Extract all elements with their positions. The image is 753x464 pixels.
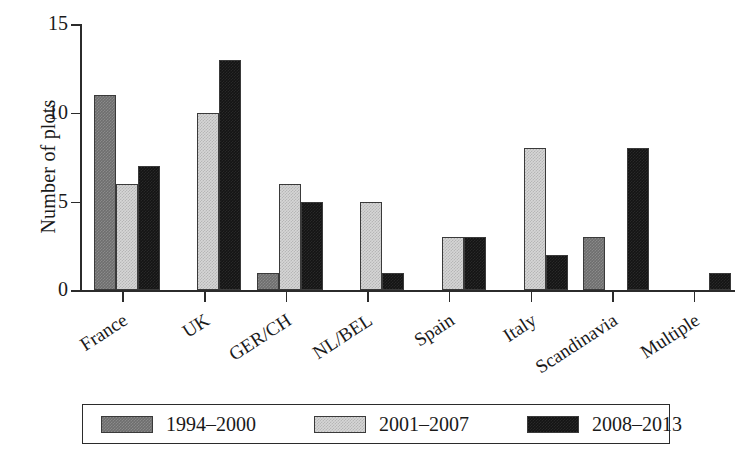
bar (219, 60, 241, 291)
y-tick-label: 5 (28, 191, 68, 211)
bar (360, 202, 382, 291)
bar-group (490, 24, 572, 290)
y-tick-label: 15 (28, 13, 68, 33)
y-tick-label: 10 (28, 102, 68, 122)
bar-chart-figure: Number of plots 051015 FranceUKGER/CHNL/… (0, 0, 753, 464)
bar (464, 237, 486, 290)
legend-swatch (314, 416, 366, 433)
bar (257, 273, 279, 291)
bar (524, 148, 546, 290)
bar (94, 95, 116, 290)
x-axis-labels: FranceUKGER/CHNL/BELSpainItalyScandinavi… (82, 304, 735, 394)
y-tick-mark (71, 24, 80, 26)
bar-group (245, 24, 327, 290)
legend-item: 2008–2013 (527, 405, 682, 443)
y-axis-title: Number of plots (37, 47, 60, 287)
bar (583, 237, 605, 290)
bar (279, 184, 301, 291)
bar-group (82, 24, 164, 290)
x-tick-label: Italy (499, 310, 539, 345)
bar-group (326, 24, 408, 290)
y-tick-mark (71, 290, 80, 292)
bar-groups (82, 24, 735, 290)
bar-group (163, 24, 245, 290)
x-tick-label: NL/BEL (310, 310, 376, 362)
y-tick-mark (71, 202, 80, 204)
legend-item: 2001–2007 (314, 405, 469, 443)
legend-swatch (101, 416, 153, 433)
x-tick-mark (204, 292, 206, 302)
bar (546, 255, 568, 291)
x-tick-label: Scandinavia (532, 310, 620, 377)
x-tick-label: Multiple (637, 310, 702, 362)
x-tick-mark (449, 292, 451, 302)
bar-group (653, 24, 735, 290)
x-tick-mark (367, 292, 369, 302)
plot-area: 051015 FranceUKGER/CHNL/BELSpainItalySca… (80, 24, 753, 292)
legend-label: 2008–2013 (592, 414, 682, 434)
x-axis-ticks (82, 292, 735, 302)
legend-item: 1994–2000 (101, 405, 256, 443)
x-tick-mark (122, 292, 124, 302)
y-tick-label: 0 (28, 279, 68, 299)
legend-label: 1994–2000 (166, 414, 256, 434)
y-tick-mark (71, 113, 80, 115)
chart-legend: 1994–20002001–20072008–2013 (82, 404, 670, 444)
x-tick-mark (286, 292, 288, 302)
bar (627, 148, 649, 290)
bar-group (408, 24, 490, 290)
bar (442, 237, 464, 290)
legend-label: 2001–2007 (379, 414, 469, 434)
bar-group (571, 24, 653, 290)
x-tick-label: Spain (411, 310, 458, 350)
x-tick-label: France (77, 310, 131, 354)
bar (197, 113, 219, 291)
bar (382, 273, 404, 291)
bar (138, 166, 160, 290)
legend-swatch (527, 416, 579, 433)
bar (301, 202, 323, 291)
x-tick-label: GER/CH (225, 310, 294, 364)
x-tick-mark (531, 292, 533, 302)
bar (709, 273, 731, 291)
x-tick-mark (612, 292, 614, 302)
x-tick-label: UK (179, 310, 212, 341)
bar (116, 184, 138, 291)
x-tick-mark (694, 292, 696, 302)
